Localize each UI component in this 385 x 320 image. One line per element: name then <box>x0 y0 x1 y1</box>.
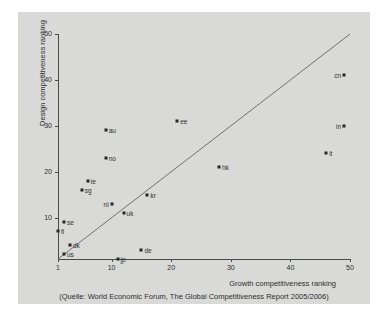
data-point-label: no <box>109 154 116 161</box>
data-point-label: hk <box>222 164 229 171</box>
diagonal-reference-line <box>18 12 370 304</box>
data-point <box>57 230 60 233</box>
scatter-plot-area: 11020304050 1020304050 fiussedkiesgnoaun… <box>18 12 370 304</box>
y-tick-mark <box>55 126 58 127</box>
data-point-label: nl <box>104 200 109 207</box>
data-point <box>104 156 107 159</box>
x-tick-label: 20 <box>167 264 175 272</box>
data-point-label: us <box>67 251 74 258</box>
data-point-label: sg <box>85 187 92 194</box>
x-tick-label: 30 <box>227 264 235 272</box>
data-point <box>104 129 107 132</box>
data-point-label: au <box>109 127 116 134</box>
x-tick-label: 40 <box>287 264 295 272</box>
data-point-label: dk <box>73 242 80 249</box>
chart-figure: 11020304050 1020304050 fiussedkiesgnoaun… <box>18 12 370 304</box>
data-point <box>146 193 149 196</box>
y-tick-mark <box>55 218 58 219</box>
data-point-label: fi <box>61 228 64 235</box>
data-point <box>343 124 346 127</box>
data-point <box>80 189 83 192</box>
data-point-label: ee <box>180 118 187 125</box>
x-tick-mark <box>58 259 59 262</box>
data-point-label: de <box>144 246 151 253</box>
data-point <box>68 244 71 247</box>
y-tick-label: 10 <box>36 214 52 222</box>
data-point-label: ie <box>91 177 96 184</box>
data-point <box>140 248 143 251</box>
y-tick-mark <box>55 80 58 81</box>
data-point <box>343 74 346 77</box>
data-point-label: in <box>336 122 341 129</box>
x-tick-label: 1 <box>56 264 60 272</box>
x-tick-mark <box>112 259 113 262</box>
x-tick-mark <box>350 259 351 262</box>
y-tick-label: 20 <box>36 168 52 176</box>
x-tick-mark <box>231 259 232 262</box>
y-tick-mark <box>55 34 58 35</box>
x-tick-label: 50 <box>346 264 354 272</box>
data-point-label: it <box>329 150 332 157</box>
x-tick-mark <box>290 259 291 262</box>
x-tick-label: 10 <box>108 264 116 272</box>
x-tick-mark <box>171 259 172 262</box>
x-axis-title: Growth competitiveness ranking <box>18 279 336 288</box>
data-point <box>217 166 220 169</box>
data-point <box>62 253 65 256</box>
data-point <box>86 179 89 182</box>
data-point-label: jp <box>121 256 126 263</box>
data-point <box>325 152 328 155</box>
data-point-label: se <box>67 219 74 226</box>
data-point-label: uk <box>127 210 134 217</box>
data-point <box>116 258 119 261</box>
y-axis-title: Design competitiveness ranking <box>38 20 47 126</box>
data-point <box>122 212 125 215</box>
data-point-label: cn <box>334 72 341 79</box>
data-point <box>110 202 113 205</box>
source-caption: (Quelle: World Economic Forum, The Globa… <box>18 292 370 301</box>
data-point <box>176 120 179 123</box>
data-point <box>62 221 65 224</box>
y-tick-mark <box>55 172 58 173</box>
data-point-label: kr <box>150 191 155 198</box>
